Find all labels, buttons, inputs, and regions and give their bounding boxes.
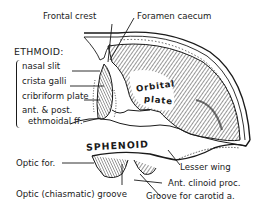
ethmoid-brace <box>16 60 21 128</box>
label-foramen-caecum: Foramen caecum <box>137 12 211 21</box>
label-frontal-crest: Frontal crest <box>43 12 96 21</box>
label-optic-groove: Optic (chiasmatic) groove <box>16 190 127 199</box>
label-ethmoidal-foramina-2: ethmoidal ff. <box>28 117 83 126</box>
label-carotid-groove: Groove for carotid a. <box>146 192 235 201</box>
label-ethmoid-heading: ETHMOID: <box>14 47 64 56</box>
label-optic-foramen: Optic for. <box>16 159 55 168</box>
label-lesser-wing: Lesser wing <box>180 163 231 172</box>
label-ant-clinoid: Ant. clinoid proc. <box>168 179 240 188</box>
label-ethmoidal-foramina-1: ant. & post. <box>22 106 72 115</box>
label-nasal-slit: nasal slit <box>22 62 60 71</box>
label-cribriform-plate: cribriform plate <box>22 92 89 101</box>
orbital-plate <box>108 44 240 141</box>
label-crista-galli: crista galli <box>22 77 66 86</box>
